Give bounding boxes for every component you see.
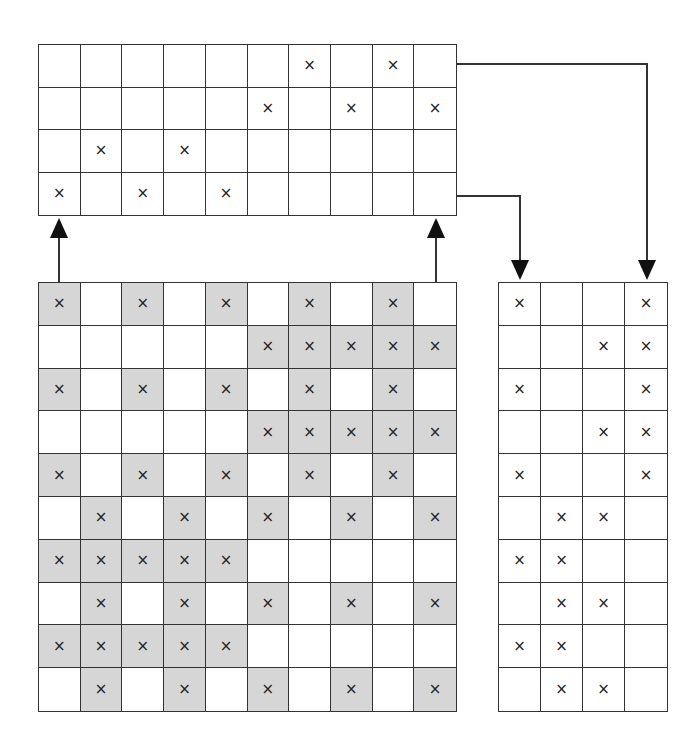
x-mark-icon: ×	[345, 682, 358, 697]
x-mark-icon: ×	[303, 58, 316, 73]
x-mark-icon: ×	[220, 296, 233, 311]
top-cell-r3-c6	[289, 173, 331, 216]
x-mark-icon: ×	[53, 553, 66, 568]
right-cell-r0-c3: ×	[625, 283, 667, 326]
main-cell-r6-c0: ×	[39, 540, 81, 583]
top-cell-r1-c9: ×	[414, 88, 456, 131]
main-cell-r8-c6	[289, 625, 331, 668]
right-cell-r2-c3: ×	[625, 369, 667, 412]
top-cell-r1-c5: ×	[248, 88, 290, 131]
arrowhead-icon	[638, 260, 656, 280]
right-cell-r4-c0: ×	[499, 454, 541, 497]
x-mark-icon: ×	[429, 101, 442, 116]
top-cell-r1-c1	[81, 88, 123, 131]
top-cell-r2-c4	[206, 130, 248, 173]
main-cell-r5-c2	[122, 497, 164, 540]
x-mark-icon: ×	[345, 339, 358, 354]
right-cell-r0-c2	[583, 283, 625, 326]
right-cell-r5-c3	[625, 497, 667, 540]
right-cell-r6-c2	[583, 540, 625, 583]
main-cell-r0-c2: ×	[122, 283, 164, 326]
main-cell-r1-c1	[81, 326, 123, 369]
main-cell-r8-c7	[331, 625, 373, 668]
x-mark-icon: ×	[303, 382, 316, 397]
main-cell-r4-c5	[248, 454, 290, 497]
main-cell-r0-c1	[81, 283, 123, 326]
top-cell-r0-c9	[414, 45, 456, 88]
main-cell-r5-c0	[39, 497, 81, 540]
main-cell-r1-c3	[164, 326, 206, 369]
right-cell-r3-c1	[541, 411, 583, 454]
main-cell-r4-c3	[164, 454, 206, 497]
x-mark-icon: ×	[387, 339, 400, 354]
main-cell-r2-c5	[248, 369, 290, 412]
main-cell-r9-c5: ×	[248, 668, 290, 711]
main-cell-r0-c0: ×	[39, 283, 81, 326]
top-cell-r1-c6	[289, 88, 331, 131]
top-cell-r1-c2	[122, 88, 164, 131]
top-cell-r3-c0: ×	[39, 173, 81, 216]
main-cell-r4-c8: ×	[373, 454, 415, 497]
main-cell-r8-c5	[248, 625, 290, 668]
right-cell-r3-c3: ×	[625, 411, 667, 454]
main-cell-r5-c6	[289, 497, 331, 540]
right-cell-r9-c2: ×	[583, 668, 625, 711]
connector-short	[457, 196, 529, 280]
main-cell-r7-c9: ×	[414, 583, 456, 626]
x-mark-icon: ×	[555, 510, 568, 525]
x-mark-icon: ×	[640, 296, 653, 311]
x-mark-icon: ×	[262, 596, 275, 611]
x-mark-icon: ×	[387, 425, 400, 440]
x-mark-icon: ×	[513, 296, 526, 311]
right-cell-r4-c3: ×	[625, 454, 667, 497]
main-cell-r7-c4	[206, 583, 248, 626]
x-mark-icon: ×	[262, 101, 275, 116]
x-mark-icon: ×	[262, 510, 275, 525]
x-mark-icon: ×	[513, 382, 526, 397]
top-cell-r0-c3	[164, 45, 206, 88]
x-mark-icon: ×	[640, 339, 653, 354]
x-mark-icon: ×	[95, 510, 108, 525]
main-cell-r7-c6	[289, 583, 331, 626]
x-mark-icon: ×	[345, 510, 358, 525]
main-cell-r1-c0	[39, 326, 81, 369]
main-cell-r6-c1: ×	[81, 540, 123, 583]
main-cell-r3-c8: ×	[373, 411, 415, 454]
right-cell-r7-c3	[625, 583, 667, 626]
main-cell-r4-c7	[331, 454, 373, 497]
main-cell-r2-c7	[331, 369, 373, 412]
x-mark-icon: ×	[220, 468, 233, 483]
x-mark-icon: ×	[555, 596, 568, 611]
x-mark-icon: ×	[220, 382, 233, 397]
top-cell-r0-c8: ×	[373, 45, 415, 88]
main-cell-r6-c4: ×	[206, 540, 248, 583]
up-arrow-left	[50, 218, 68, 282]
main-cell-r0-c3	[164, 283, 206, 326]
right-cell-r8-c1: ×	[541, 625, 583, 668]
x-mark-icon: ×	[640, 425, 653, 440]
x-mark-icon: ×	[53, 382, 66, 397]
main-cell-r9-c0	[39, 668, 81, 711]
main-cell-r0-c6: ×	[289, 283, 331, 326]
right-cell-r6-c0: ×	[499, 540, 541, 583]
main-cell-r0-c9	[414, 283, 456, 326]
right-cell-r8-c3	[625, 625, 667, 668]
top-cell-r0-c6: ×	[289, 45, 331, 88]
right-cell-r1-c1	[541, 326, 583, 369]
x-mark-icon: ×	[95, 143, 108, 158]
top-cell-r1-c8	[373, 88, 415, 131]
top-cell-r3-c8	[373, 173, 415, 216]
main-cell-r7-c1: ×	[81, 583, 123, 626]
x-mark-icon: ×	[387, 382, 400, 397]
x-mark-icon: ×	[220, 186, 233, 201]
top-cell-r0-c1	[81, 45, 123, 88]
main-cell-r3-c6: ×	[289, 411, 331, 454]
x-mark-icon: ×	[513, 639, 526, 654]
right-cell-r4-c1	[541, 454, 583, 497]
x-mark-icon: ×	[597, 425, 610, 440]
x-mark-icon: ×	[429, 596, 442, 611]
main-cell-r3-c3	[164, 411, 206, 454]
top-cell-r3-c7	[331, 173, 373, 216]
x-mark-icon: ×	[95, 553, 108, 568]
x-mark-icon: ×	[303, 296, 316, 311]
